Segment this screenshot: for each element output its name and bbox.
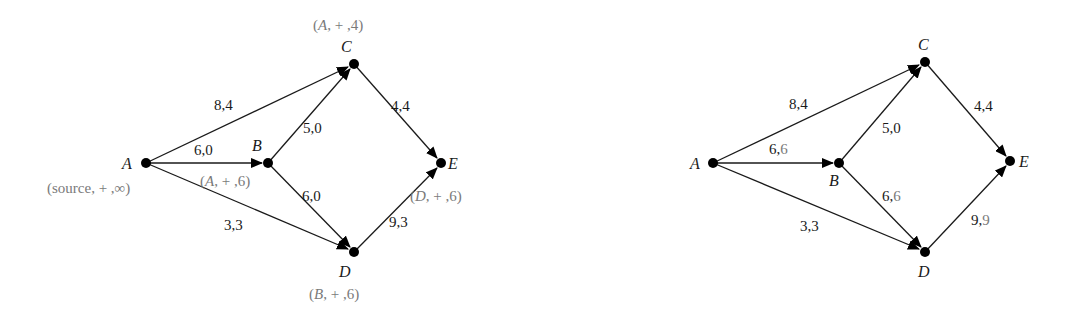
edge-d-e-label: 9,9 (971, 212, 990, 228)
right-diagram: A B C D E 8,4 6,6 3,3 5,0 6,6 4,4 9,9 (689, 36, 1029, 280)
edge-c-e-label: 4,4 (391, 98, 410, 114)
node-d-name: D (338, 263, 351, 280)
flow-network-figure: A B C D E (source, + ,∞) (A, + ,6) (A, +… (0, 0, 1085, 332)
node-d-name: D (917, 263, 930, 280)
edge-b-d-label: 6,0 (302, 188, 321, 204)
node-e (1005, 156, 1015, 166)
edge-a-c (146, 67, 348, 163)
edge-b-c (268, 69, 350, 163)
updated-flow: 9 (982, 212, 990, 228)
edge-a-c-label: 8,4 (789, 96, 808, 112)
edge-b-c-label: 5,0 (303, 120, 322, 136)
node-b-tag: (A, + ,6) (200, 173, 250, 190)
node-b (263, 158, 273, 168)
node-b-name: B (829, 172, 839, 189)
node-d (920, 247, 930, 257)
edge-a-c (713, 65, 919, 163)
node-c (920, 57, 930, 67)
edge-a-d-label: 3,3 (224, 217, 243, 233)
edge-a-d-label: 3,3 (800, 218, 819, 234)
node-c (349, 59, 359, 69)
edge-a-d (713, 163, 919, 249)
edge-d-e (925, 166, 1006, 252)
edge-d-e-label: 9,3 (389, 214, 408, 230)
node-e-tag: (D, + ,6) (410, 188, 462, 205)
node-e-name: E (1018, 153, 1029, 170)
edge-c-e (925, 62, 1006, 156)
node-d (349, 247, 359, 257)
edge-a-b-label: 6,6 (769, 141, 788, 157)
edge-c-e-label: 4,4 (974, 98, 993, 114)
node-a (708, 158, 718, 168)
edge-a-c-label: 8,4 (214, 97, 233, 113)
edge-d-e (354, 168, 437, 252)
node-c-name: C (918, 36, 929, 53)
edge-b-d (839, 163, 921, 247)
node-b (834, 158, 844, 168)
edge-a-b-label: 6,0 (194, 142, 213, 158)
updated-flow: 6 (893, 188, 901, 204)
edge-b-c-label: 5,0 (882, 120, 901, 136)
updated-flow: 6 (780, 141, 788, 157)
edge-b-d-label: 6,6 (882, 188, 901, 204)
node-c-name: C (341, 38, 352, 55)
edge-b-d (268, 163, 350, 247)
node-c-tag: (A, + ,4) (313, 17, 363, 34)
node-d-tag: (B, + ,6) (309, 286, 359, 303)
node-e-name: E (447, 155, 458, 172)
left-diagram: A B C D E (source, + ,∞) (A, + ,6) (A, +… (47, 17, 462, 303)
node-a-name: A (121, 155, 132, 172)
edge-b-c (839, 67, 921, 163)
node-a (141, 158, 151, 168)
node-a-name: A (689, 155, 700, 172)
node-e (436, 158, 446, 168)
node-a-tag: (source, + ,∞) (47, 180, 130, 197)
node-b-name: B (252, 137, 262, 154)
